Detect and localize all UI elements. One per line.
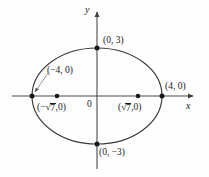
radical-right-focus: √7 — [121, 102, 131, 113]
label-top-vertex: (0, 3) — [103, 36, 124, 46]
label-right-vertex: (4, 0) — [165, 82, 186, 92]
label-bottom-vertex: (0, −3) — [99, 148, 125, 158]
radicand-left: 7 — [50, 103, 56, 114]
point-bottom-vertex — [95, 142, 100, 147]
point-left-focus — [55, 94, 60, 99]
label-left-focus: (−√7,0) — [37, 102, 66, 113]
label-left-focus-close: ,0) — [56, 102, 66, 112]
point-right-vertex — [160, 94, 165, 99]
radical-left-focus: √7 — [46, 102, 56, 113]
leader-arrow-left-vertex — [35, 73, 48, 92]
point-top-vertex — [95, 46, 100, 51]
radicand-right: 7 — [125, 103, 131, 114]
label-left-focus-open: (− — [37, 102, 46, 112]
x-axis-label: x — [186, 101, 190, 111]
point-left-vertex — [30, 94, 35, 99]
label-right-focus-close: ,0) — [131, 102, 141, 112]
point-right-focus — [136, 94, 141, 99]
origin-label: 0 — [87, 100, 92, 110]
label-right-focus: (√7,0) — [118, 102, 141, 113]
y-axis-label: y — [85, 5, 89, 15]
ellipse-figure: y x 0 (0, 3) (0, −3) (4, 0) (−4, 0) (−√7… — [0, 0, 209, 177]
label-left-vertex: (−4, 0) — [47, 66, 73, 76]
